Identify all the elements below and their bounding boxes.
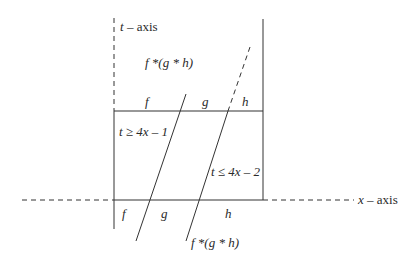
top-label-f: f xyxy=(145,94,151,109)
bottom-label-h: h xyxy=(225,206,232,221)
convolution-region-diagram: t – axis f *(g * h) f g h t ≥ 4x – 1 t ≤… xyxy=(0,0,414,258)
inequality-left: t ≥ 4x – 1 xyxy=(119,124,168,139)
x-axis-label: x – axis xyxy=(357,192,398,207)
bottom-label-f: f xyxy=(122,206,128,221)
top-label-h: h xyxy=(242,94,249,109)
bottom-label-g: g xyxy=(161,206,168,221)
inequality-right: t ≤ 4x – 2 xyxy=(211,164,261,179)
top-label-g: g xyxy=(202,94,209,109)
bottom-formula: f *(g * h) xyxy=(191,235,239,250)
t-axis-label: t – axis xyxy=(120,19,158,34)
top-formula: f *(g * h) xyxy=(145,55,193,70)
